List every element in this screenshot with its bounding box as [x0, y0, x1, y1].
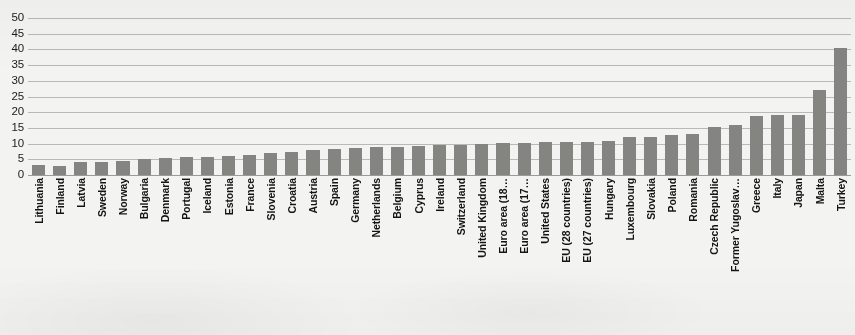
y-axis-tick-label: 20	[12, 106, 24, 118]
x-axis-label-slot: Greece	[746, 178, 767, 303]
bar[interactable]	[665, 135, 678, 175]
bar-slot	[366, 18, 387, 175]
x-axis-tick-label: Norway	[118, 178, 129, 215]
x-axis-tick-label: Turkey	[835, 178, 846, 211]
bar-chart-figure: 50454035302520151050 LithuaniaFinlandLat…	[0, 0, 855, 335]
x-axis-tick-label: Slovenia	[266, 178, 277, 220]
x-axis-label-slot: France	[239, 178, 260, 303]
x-axis: LithuaniaFinlandLatviaSwedenNorwayBulgar…	[28, 178, 851, 303]
bar-slot	[725, 18, 746, 175]
bar-slot	[619, 18, 640, 175]
bar[interactable]	[138, 159, 151, 175]
bar[interactable]	[792, 115, 805, 175]
x-axis-label-slot: Austria	[302, 178, 323, 303]
bar[interactable]	[602, 141, 615, 175]
x-axis-label-slot: Malta	[809, 178, 830, 303]
bar[interactable]	[454, 145, 467, 175]
bar[interactable]	[623, 137, 636, 175]
bar[interactable]	[285, 152, 298, 175]
bar[interactable]	[159, 158, 172, 175]
bars-layer	[28, 18, 851, 175]
x-axis-tick-label: United States	[540, 178, 551, 244]
x-axis-label-slot: Iceland	[197, 178, 218, 303]
bar-slot	[155, 18, 176, 175]
bar[interactable]	[222, 156, 235, 175]
bar-slot	[767, 18, 788, 175]
bar[interactable]	[328, 149, 341, 175]
bar-slot	[577, 18, 598, 175]
bar-slot	[450, 18, 471, 175]
bar[interactable]	[433, 145, 446, 175]
x-axis-tick-label: Greece	[751, 178, 762, 213]
bar[interactable]	[539, 142, 552, 175]
bar[interactable]	[180, 157, 193, 175]
bar-slot	[112, 18, 133, 175]
bar[interactable]	[813, 90, 826, 175]
bar-slot	[70, 18, 91, 175]
x-axis-label-slot: Euro area (17…	[514, 178, 535, 303]
x-axis-tick-label: Lithuania	[33, 178, 44, 224]
bar[interactable]	[686, 134, 699, 175]
x-axis-tick-label: Ireland	[434, 178, 445, 212]
x-axis-label-slot: Poland	[661, 178, 682, 303]
bar-slot	[134, 18, 155, 175]
x-axis-tick-label: Poland	[667, 178, 678, 212]
bar[interactable]	[708, 127, 721, 175]
y-axis-tick-label: 0	[18, 169, 24, 181]
bar[interactable]	[116, 161, 129, 175]
x-axis-label-slot: Italy	[767, 178, 788, 303]
x-axis-label-slot: Latvia	[70, 178, 91, 303]
x-axis-tick-label: Netherlands	[371, 178, 382, 238]
bar[interactable]	[834, 48, 847, 175]
bar-slot	[514, 18, 535, 175]
bar[interactable]	[391, 147, 404, 175]
x-axis-tick-label: United Kingdom	[477, 178, 488, 258]
bar-slot	[746, 18, 767, 175]
bar[interactable]	[560, 142, 573, 175]
y-axis: 50454035302520151050	[0, 18, 24, 175]
bar[interactable]	[729, 125, 742, 175]
bar-slot	[218, 18, 239, 175]
bar[interactable]	[306, 150, 319, 175]
y-axis-tick-label: 25	[12, 91, 24, 103]
bar[interactable]	[349, 148, 362, 175]
bar[interactable]	[750, 116, 763, 175]
x-axis-tick-label: Germany	[350, 178, 361, 223]
bar-slot	[830, 18, 851, 175]
bar[interactable]	[74, 162, 87, 175]
bar-slot	[49, 18, 70, 175]
bar[interactable]	[518, 143, 531, 175]
bar-slot	[809, 18, 830, 175]
bar[interactable]	[32, 165, 45, 175]
bar[interactable]	[201, 157, 214, 175]
bar[interactable]	[475, 144, 488, 175]
x-axis-label-slot: EU (27 countries)	[577, 178, 598, 303]
bar[interactable]	[771, 115, 784, 175]
x-axis-tick-label: Iceland	[202, 178, 213, 213]
x-axis-tick-label: Former Yugoslav…	[730, 178, 741, 272]
bar-slot	[492, 18, 513, 175]
bar[interactable]	[53, 166, 66, 175]
bar-slot	[345, 18, 366, 175]
x-axis-tick-label: Bulgaria	[139, 178, 150, 219]
x-axis-label-slot: United States	[535, 178, 556, 303]
bar-slot	[408, 18, 429, 175]
bar[interactable]	[581, 142, 594, 175]
x-axis-tick-label: Romania	[688, 178, 699, 222]
bar[interactable]	[370, 147, 383, 175]
x-axis-tick-label: Czech Republic	[709, 178, 720, 255]
bar[interactable]	[264, 153, 277, 175]
bar[interactable]	[644, 137, 657, 175]
bar-slot	[91, 18, 112, 175]
bar[interactable]	[243, 155, 256, 175]
x-axis-label-slot: Slovenia	[260, 178, 281, 303]
bar[interactable]	[412, 146, 425, 175]
bar-slot	[471, 18, 492, 175]
bar-slot	[324, 18, 345, 175]
bar[interactable]	[95, 162, 108, 176]
bar[interactable]	[496, 143, 509, 175]
x-axis-label-slot: Luxembourg	[619, 178, 640, 303]
x-axis-tick-label: Finland	[54, 178, 65, 215]
x-axis-label-slot: Slovakia	[640, 178, 661, 303]
x-axis-label-slot: Denmark	[155, 178, 176, 303]
